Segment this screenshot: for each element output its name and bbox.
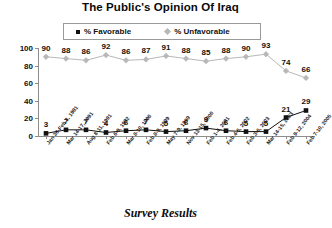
data-point-label: 90 [42,44,51,53]
data-point-label: 88 [222,46,231,55]
data-point-label: 86 [82,47,91,56]
square-marker-icon [184,128,189,133]
square-marker-icon [84,128,89,133]
data-point-label: 88 [62,46,71,55]
data-point-label: 29 [302,97,311,106]
diamond-marker-icon [63,55,69,61]
data-point-label: 66 [302,65,311,74]
data-point-label: 85 [202,48,211,57]
data-point-label: 74 [282,58,291,67]
diamond-marker-icon [243,54,249,60]
series-line-unfavorable [46,54,306,78]
data-point-label: 87 [142,46,151,55]
diamond-marker-icon [83,57,89,63]
square-marker-icon [64,128,69,133]
square-marker-icon [104,130,109,135]
diamond-marker-icon [183,55,189,61]
diamond-marker-icon [103,52,109,58]
data-point-label: 90 [242,44,251,53]
square-marker-icon [244,129,249,134]
diamond-marker-icon [203,58,209,64]
square-marker-icon [264,129,269,134]
diamond-marker-icon [303,75,309,81]
chart-caption: Survey Results [0,206,321,221]
data-point-label: 91 [162,43,171,52]
diamond-marker-icon [123,57,129,63]
data-point-label: 88 [182,46,191,55]
diamond-marker-icon [43,54,49,60]
data-point-label: 3 [44,120,48,129]
diamond-marker-icon [163,53,169,59]
square-marker-icon [164,129,169,134]
data-point-label: 86 [122,47,131,56]
square-marker-icon [44,131,49,136]
data-point-label: 93 [262,41,271,50]
diamond-marker-icon [223,55,229,61]
square-marker-icon [124,128,129,133]
square-marker-icon [144,128,149,133]
data-point-label: 92 [102,42,111,51]
square-marker-icon [224,128,229,133]
diamond-marker-icon [143,56,149,62]
